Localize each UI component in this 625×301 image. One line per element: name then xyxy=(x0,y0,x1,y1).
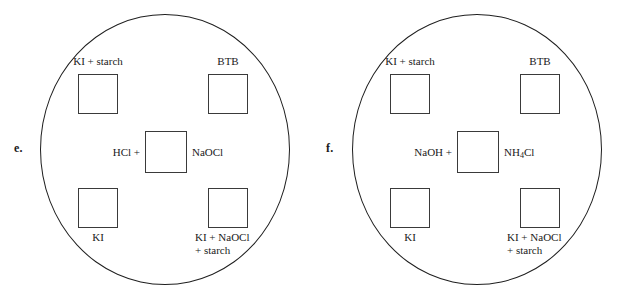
well-label-top-left-e: KI + starch xyxy=(73,55,123,68)
well-label-bottom-right-f: KI + NaOCl + starch xyxy=(507,231,577,256)
well-label-bottom-right-e-line2: + starch xyxy=(195,244,265,257)
well-center-e xyxy=(145,131,187,173)
well-label-top-right-e: BTB xyxy=(217,55,238,68)
well-label-center-left-f: NaOH + xyxy=(414,146,452,159)
well-top-right-f xyxy=(520,74,560,114)
panel-e: e. KI + starch BTB HCl + NaOCl KI KI + N… xyxy=(0,0,312,301)
formula-prefix-nh4cl: NH xyxy=(504,146,520,158)
panel-letter-f: f. xyxy=(326,142,333,154)
well-label-center-right-e: NaOCl xyxy=(192,146,223,159)
well-label-center-left-e: HCl + xyxy=(113,146,140,159)
well-center-f xyxy=(457,131,499,173)
well-label-bottom-left-e: KI xyxy=(92,231,104,244)
well-bottom-left-f xyxy=(390,188,430,228)
figure-container: e. KI + starch BTB HCl + NaOCl KI KI + N… xyxy=(0,0,625,301)
well-label-bottom-left-f: KI xyxy=(404,231,416,244)
well-top-right-e xyxy=(208,74,248,114)
well-label-center-right-f: NH4Cl xyxy=(504,146,534,161)
well-bottom-right-f xyxy=(520,188,560,228)
well-label-top-left-f: KI + starch xyxy=(385,55,435,68)
well-top-left-f xyxy=(390,74,430,114)
formula-subscript-nh4cl: 4 xyxy=(520,151,524,160)
well-bottom-left-e xyxy=(78,188,118,228)
well-top-left-e xyxy=(78,74,118,114)
panel-letter-e: e. xyxy=(14,142,23,154)
well-bottom-right-e xyxy=(208,188,248,228)
well-label-bottom-right-f-line2: + starch xyxy=(507,244,577,257)
formula-suffix-nh4cl: Cl xyxy=(524,146,534,158)
well-label-bottom-right-e: KI + NaOCl + starch xyxy=(195,231,265,256)
well-label-bottom-right-f-line1: KI + NaOCl xyxy=(507,231,561,243)
well-label-bottom-right-e-line1: KI + NaOCl xyxy=(195,231,249,243)
well-label-top-right-f: BTB xyxy=(529,55,550,68)
panel-f: f. KI + starch BTB NaOH + NH4Cl KI KI + … xyxy=(312,0,624,301)
